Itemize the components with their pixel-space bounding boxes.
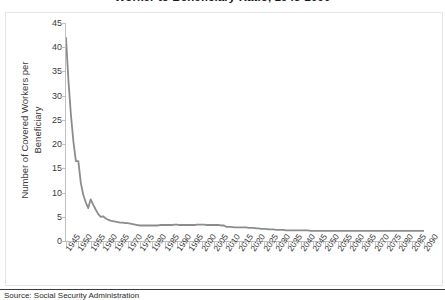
- x-axis-minor-tick-2059: [347, 242, 348, 244]
- x-axis-minor-tick-1987: [170, 242, 171, 244]
- x-axis-minor-tick-2081: [402, 242, 403, 244]
- x-axis-minor-tick-2027: [268, 242, 269, 244]
- x-axis-minor-tick-2019: [249, 242, 250, 244]
- x-axis-minor-tick-2021: [254, 242, 255, 244]
- x-axis-minor-tick-1973: [135, 242, 136, 244]
- x-axis-minor-tick-1988: [172, 242, 173, 244]
- x-axis-minor-tick-1947: [71, 242, 72, 244]
- x-axis-minor-tick-2028: [271, 242, 272, 244]
- chart-figure: Worker to Beneficiary Ratio, 1945-2090 N…: [0, 0, 445, 300]
- x-axis-minor-tick-1982: [157, 242, 158, 244]
- x-axis-tick-1950: [78, 242, 79, 246]
- x-axis-minor-tick-1967: [120, 242, 121, 244]
- x-axis-minor-tick-2084: [409, 242, 410, 244]
- x-axis-minor-tick-2069: [372, 242, 373, 244]
- x-axis-minor-tick-2031: [278, 242, 279, 244]
- x-axis-minor-tick-2048: [320, 242, 321, 244]
- x-axis-minor-tick-2013: [234, 242, 235, 244]
- x-axis-minor-tick-2007: [219, 242, 220, 244]
- x-axis-minor-tick-2014: [236, 242, 237, 244]
- x-axis-minor-tick-2032: [281, 242, 282, 244]
- x-axis-tick-2025: [264, 242, 265, 246]
- x-axis-minor-tick-2052: [330, 242, 331, 244]
- x-axis-minor-tick-2046: [315, 242, 316, 244]
- y-axis-tick-15: [61, 168, 65, 169]
- x-axis-minor-tick-2058: [345, 242, 346, 244]
- y-axis-title-line1: Number of Covered Workers per: [18, 61, 31, 198]
- x-axis-minor-tick-2083: [407, 242, 408, 244]
- x-axis-minor-tick-2086: [414, 242, 415, 244]
- x-axis-minor-tick-2039: [298, 242, 299, 244]
- x-axis-minor-tick-2066: [365, 242, 366, 244]
- x-axis-tick-1975: [140, 242, 141, 246]
- x-axis-tick-2000: [202, 242, 203, 246]
- x-axis-minor-tick-2023: [259, 242, 260, 244]
- x-axis-minor-tick-1966: [118, 242, 119, 244]
- x-axis-minor-tick-1959: [101, 242, 102, 244]
- x-axis-minor-tick-1968: [123, 242, 124, 244]
- x-axis-tick-1960: [103, 242, 104, 246]
- x-axis-tick-2060: [350, 242, 351, 246]
- x-axis-minor-tick-1994: [187, 242, 188, 244]
- x-axis-minor-tick-1983: [160, 242, 161, 244]
- x-axis-minor-tick-2056: [340, 242, 341, 244]
- y-axis-tick-20: [61, 144, 65, 145]
- x-axis-tick-1970: [128, 242, 129, 246]
- x-axis-minor-tick-2011: [229, 242, 230, 244]
- x-axis-minor-tick-2041: [303, 242, 304, 244]
- y-axis-tick-35: [61, 71, 65, 72]
- x-axis-minor-tick-2038: [296, 242, 297, 244]
- x-axis-minor-tick-2018: [246, 242, 247, 244]
- y-axis-tick-45: [61, 23, 65, 24]
- series-line-worker-to-beneficiary-ratio: [66, 38, 424, 231]
- x-axis-minor-tick-2072: [380, 242, 381, 244]
- x-axis-minor-tick-2074: [384, 242, 385, 244]
- x-axis-minor-tick-2012: [231, 242, 232, 244]
- y-axis-tick-10: [61, 193, 65, 194]
- x-axis-minor-tick-2078: [394, 242, 395, 244]
- x-axis-minor-tick-1949: [76, 242, 77, 244]
- x-axis-minor-tick-2022: [256, 242, 257, 244]
- x-axis-minor-tick-2063: [357, 242, 358, 244]
- x-axis-minor-tick-1981: [155, 242, 156, 244]
- chart-title: Worker to Beneficiary Ratio, 1945-2090: [0, 0, 445, 3]
- x-axis-minor-tick-1996: [192, 242, 193, 244]
- source-divider: [0, 289, 445, 290]
- x-axis-minor-tick-1989: [175, 242, 176, 244]
- x-axis-minor-tick-1946: [68, 242, 69, 244]
- x-axis-minor-tick-1948: [73, 242, 74, 244]
- x-axis-minor-tick-2054: [335, 242, 336, 244]
- x-axis-minor-tick-1958: [98, 242, 99, 244]
- x-axis-minor-tick-2002: [207, 242, 208, 244]
- x-axis-minor-tick-2051: [328, 242, 329, 244]
- x-axis-minor-tick-2034: [286, 242, 287, 244]
- y-axis-tick-0: [61, 241, 65, 242]
- x-axis-tick-2010: [226, 242, 227, 246]
- x-axis-minor-tick-2036: [291, 242, 292, 244]
- x-axis-minor-tick-1969: [125, 242, 126, 244]
- x-axis-tick-2030: [276, 242, 277, 246]
- x-axis-minor-tick-2024: [261, 242, 262, 244]
- x-axis-minor-tick-1957: [96, 242, 97, 244]
- x-axis-tick-2080: [399, 242, 400, 246]
- x-axis-minor-tick-1999: [199, 242, 200, 244]
- x-axis-minor-tick-1993: [185, 242, 186, 244]
- x-axis-tick-1980: [152, 242, 153, 246]
- x-axis-minor-tick-1972: [133, 242, 134, 244]
- x-axis-minor-tick-2044: [310, 242, 311, 244]
- x-axis-tick-1955: [91, 242, 92, 246]
- x-axis-minor-tick-2079: [397, 242, 398, 244]
- x-axis-minor-tick-2001: [204, 242, 205, 244]
- x-axis-minor-tick-2047: [318, 242, 319, 244]
- x-axis-minor-tick-2073: [382, 242, 383, 244]
- x-axis-tick-2040: [301, 242, 302, 246]
- x-axis-tick-2065: [362, 242, 363, 246]
- x-axis-minor-tick-1963: [110, 242, 111, 244]
- x-axis-minor-tick-2037: [293, 242, 294, 244]
- x-axis-minor-tick-2053: [333, 242, 334, 244]
- x-axis-tick-2050: [325, 242, 326, 246]
- x-axis-tick-2085: [412, 242, 413, 246]
- line-series-svg: [66, 23, 424, 241]
- x-axis-minor-tick-1953: [86, 242, 87, 244]
- y-axis-tick-5: [61, 217, 65, 218]
